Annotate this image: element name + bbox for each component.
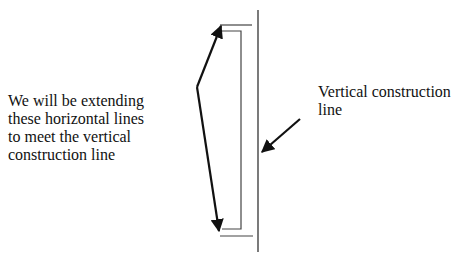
diagram-canvas: We will be extending these horizontal li… [0, 0, 467, 259]
annotation-line: We will be extending [8, 92, 198, 110]
annotation-line: construction line [8, 146, 198, 164]
arrow-to-top-line [197, 26, 221, 87]
extend-lines-annotation: We will be extending these horizontal li… [8, 92, 198, 164]
vertical-line-annotation: Vertical construction line [318, 83, 467, 119]
inner-bracket-shape [222, 31, 241, 229]
annotation-line: Vertical construction [318, 83, 467, 101]
arrow-to-vertical-line [262, 119, 300, 152]
annotation-line: to meet the vertical [8, 128, 198, 146]
arrow-to-bottom-line [197, 87, 219, 231]
annotation-line: line [318, 101, 467, 119]
annotation-line: these horizontal lines [8, 110, 198, 128]
